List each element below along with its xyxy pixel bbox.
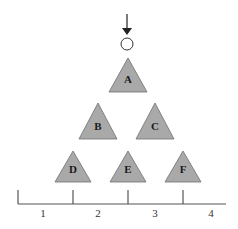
triangle-nodes: ABCDEF xyxy=(55,58,201,182)
axis-segment-label: 3 xyxy=(152,207,158,219)
node-label: B xyxy=(94,120,102,132)
triangle-node-f: F xyxy=(165,151,201,182)
axis-segment-label: 4 xyxy=(208,207,214,219)
arrowhead-icon xyxy=(122,28,132,35)
diagram-svg: ABCDEF 1234 xyxy=(0,0,238,229)
circle-icon xyxy=(121,38,133,50)
axis-segment-label: 1 xyxy=(40,207,46,219)
axis-segment-label: 2 xyxy=(95,207,101,219)
triangle-node-d: D xyxy=(55,151,91,182)
triangle-node-c: C xyxy=(136,103,174,139)
triangle-node-a: A xyxy=(109,58,147,92)
node-label: A xyxy=(124,73,132,85)
entry-marker xyxy=(121,14,133,50)
triangle-node-b: B xyxy=(79,103,117,139)
node-label: D xyxy=(69,163,77,175)
diagram-canvas: ABCDEF 1234 xyxy=(0,0,238,229)
node-label: E xyxy=(124,163,131,175)
triangle-node-e: E xyxy=(110,151,146,182)
node-label: C xyxy=(151,120,159,132)
timeline-axis: 1234 xyxy=(18,190,226,219)
node-label: F xyxy=(180,163,187,175)
